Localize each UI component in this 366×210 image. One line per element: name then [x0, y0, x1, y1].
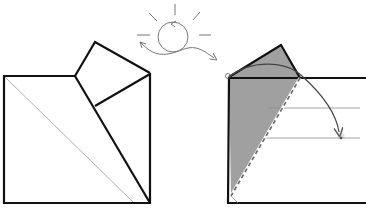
flap-edge [95, 74, 150, 106]
square-base [4, 73, 150, 203]
arrow-target-blur [338, 133, 344, 139]
sun-rotate-icon [137, 4, 214, 58]
right-panel [226, 45, 366, 203]
triangular-flap [75, 42, 150, 76]
fold-diagram [0, 0, 366, 210]
left-panel [4, 42, 150, 203]
